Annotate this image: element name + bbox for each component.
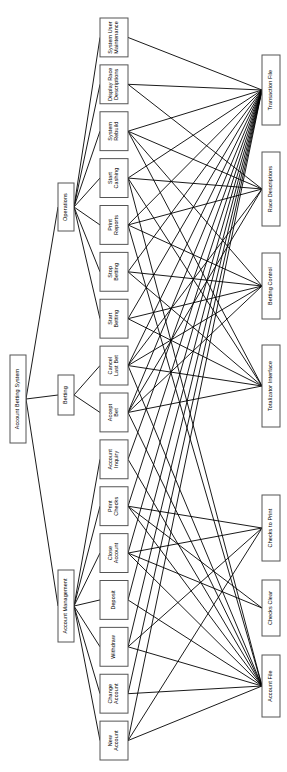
connector-line bbox=[128, 286, 262, 319]
connector-line bbox=[74, 506, 100, 606]
connector-line bbox=[128, 90, 262, 459]
connector-line bbox=[74, 395, 100, 412]
diagram-canvas: Account Betting SystemOperationsBettingA… bbox=[0, 0, 287, 772]
node-label: Totalizator Interface bbox=[267, 361, 273, 411]
node-start-cashing[interactable]: StartCashing bbox=[100, 159, 128, 198]
node-print-checks[interactable]: PrintChecks bbox=[100, 487, 128, 526]
connector-line bbox=[128, 506, 262, 608]
node-display-race-descriptions[interactable]: Display RaceDescriptions bbox=[100, 65, 128, 104]
connector-line bbox=[128, 686, 262, 741]
connector-line bbox=[128, 506, 262, 686]
node-start-betting[interactable]: StartBetting bbox=[100, 299, 128, 338]
connector-line bbox=[26, 399, 58, 606]
connector-line bbox=[74, 459, 100, 606]
connector-line bbox=[74, 366, 100, 395]
node-label: Account Betting System bbox=[14, 368, 20, 429]
node-label: System UserMaintenance bbox=[107, 21, 119, 54]
node-close-account[interactable]: CloseAccount bbox=[100, 534, 128, 573]
connector-line bbox=[128, 90, 262, 553]
connector-line bbox=[128, 84, 262, 90]
node-label: Transaction File bbox=[267, 70, 273, 111]
node-account-management[interactable]: Account Management bbox=[58, 570, 74, 642]
node-label: Withdraw bbox=[110, 635, 116, 659]
node-operations[interactable]: Operations bbox=[58, 183, 74, 231]
node-label: AccountInquiry bbox=[107, 449, 119, 470]
node-system-user-maintenance[interactable]: System UserMaintenance bbox=[100, 18, 128, 57]
node-label: Checks Clear bbox=[267, 591, 273, 625]
node-withdraw[interactable]: Withdraw bbox=[100, 627, 128, 666]
connector-line bbox=[26, 395, 58, 399]
node-system-rebuild[interactable]: SystemRebuild bbox=[100, 112, 128, 151]
connector-line bbox=[26, 207, 58, 399]
node-label: Operations bbox=[62, 193, 68, 221]
node-accept-bet[interactable]: AcceptBet bbox=[100, 393, 128, 432]
node-label: Betting Control bbox=[267, 267, 273, 305]
node-transaction-file[interactable]: Transaction File bbox=[262, 55, 280, 125]
node-label: Race Descriptions bbox=[267, 166, 273, 212]
connector-line bbox=[74, 600, 100, 606]
connector-line bbox=[128, 90, 262, 600]
node-checks-to-print[interactable]: Checks to Print bbox=[262, 495, 280, 561]
node-race-descriptions[interactable]: Race Descriptions bbox=[262, 152, 280, 226]
connector-line bbox=[74, 37, 100, 207]
node-deposit[interactable]: Deposit bbox=[100, 581, 128, 620]
connector-line bbox=[128, 686, 262, 694]
connector-line bbox=[74, 553, 100, 606]
node-cancel-last-bet[interactable]: CancelLast Bet bbox=[100, 346, 128, 385]
node-label: Deposit bbox=[110, 590, 116, 610]
node-label: SystemRebuild bbox=[107, 121, 119, 140]
node-account-betting-system[interactable]: Account Betting System bbox=[10, 355, 26, 443]
connector-line bbox=[74, 606, 100, 694]
connector-line bbox=[74, 84, 100, 207]
node-label: Checks to Print bbox=[267, 508, 273, 547]
node-label: Betting bbox=[62, 386, 68, 404]
connector-line bbox=[128, 90, 262, 366]
node-label: ChangeAccount bbox=[107, 683, 119, 704]
connector-line bbox=[128, 225, 262, 686]
node-change-account[interactable]: ChangeAccount bbox=[100, 674, 128, 713]
node-account-inquiry[interactable]: AccountInquiry bbox=[100, 440, 128, 479]
node-betting[interactable]: Betting bbox=[58, 375, 74, 415]
connector-line bbox=[128, 189, 262, 412]
node-label: Account File bbox=[267, 670, 273, 701]
node-new-account[interactable]: NewAccount bbox=[100, 721, 128, 760]
connector-line bbox=[128, 528, 262, 741]
node-label: Display RaceDescriptions bbox=[107, 68, 119, 102]
connector-line bbox=[128, 90, 262, 412]
node-label: CancelLast Bet bbox=[107, 355, 119, 376]
node-print-reports[interactable]: PrintReports bbox=[100, 206, 128, 245]
connector-line bbox=[128, 178, 262, 686]
node-stop-betting[interactable]: StopBetting bbox=[100, 252, 128, 291]
node-betting-control[interactable]: Betting Control bbox=[262, 253, 280, 319]
structure-chart-diagram: Account Betting SystemOperationsBettingA… bbox=[0, 0, 287, 772]
connector-line bbox=[128, 528, 262, 647]
connector-line bbox=[74, 131, 100, 207]
connector-line bbox=[128, 189, 262, 225]
connector-line bbox=[128, 553, 262, 608]
node-checks-clear[interactable]: Checks Clear bbox=[262, 580, 280, 636]
node-totalizator-interface[interactable]: Totalizator Interface bbox=[262, 345, 280, 427]
node-label: Account Management bbox=[62, 578, 68, 633]
node-account-file[interactable]: Account File bbox=[262, 655, 280, 717]
connector-line bbox=[128, 131, 262, 386]
connector-line bbox=[128, 37, 262, 90]
